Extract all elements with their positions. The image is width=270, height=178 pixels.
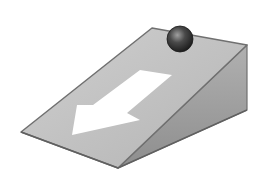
inclined-plane-diagram (0, 0, 270, 178)
diagram-svg (0, 0, 270, 178)
ball (167, 26, 193, 52)
